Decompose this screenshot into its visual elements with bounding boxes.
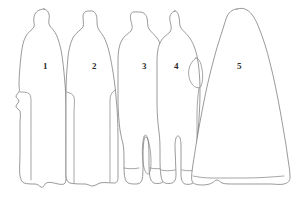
figure-label-4: 4 [174,62,179,71]
figure-label-5: 5 [237,62,242,71]
figure-label-3: 3 [142,62,147,71]
figure-outline-5 [192,8,290,185]
figure-label-2: 2 [92,62,97,71]
figure-label-1: 1 [43,62,48,71]
figure-key-canvas: 1 2 3 4 5 [0,0,302,213]
figure-outline-4 [157,11,200,184]
figure-outline-1 [16,9,66,187]
figure-outline-drawing [0,0,302,213]
